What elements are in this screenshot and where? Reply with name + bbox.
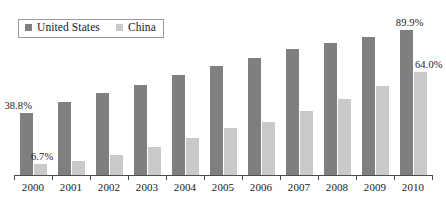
bar-united-states — [248, 58, 261, 175]
x-axis-ticks — [14, 175, 432, 180]
data-label-united-states: 89.9% — [396, 17, 424, 28]
bar-group — [318, 14, 356, 175]
x-axis-label: 2005 — [204, 181, 242, 193]
x-axis-tick — [52, 175, 53, 180]
x-axis-tick — [280, 175, 281, 180]
x-axis-tick — [432, 175, 433, 180]
x-axis-tick — [90, 175, 91, 180]
x-axis-label: 2003 — [128, 181, 166, 193]
x-axis-label: 2009 — [356, 181, 394, 193]
bar-united-states — [362, 37, 375, 175]
x-axis-tick — [318, 175, 319, 180]
x-axis-tick — [128, 175, 129, 180]
x-axis-tick — [394, 175, 395, 180]
bar-china — [34, 164, 47, 175]
x-axis-label: 2000 — [14, 181, 52, 193]
bar-united-states — [400, 30, 413, 175]
bar-group — [356, 14, 394, 175]
bar-united-states — [210, 66, 223, 175]
bar-china — [414, 72, 427, 175]
x-axis-label: 2002 — [90, 181, 128, 193]
data-label-china: 6.7% — [31, 151, 53, 162]
x-axis-label: 2006 — [242, 181, 280, 193]
bar-china — [262, 122, 275, 175]
bar-group — [52, 14, 90, 175]
bar-group: 89.9%64.0% — [394, 14, 432, 175]
bar-group — [128, 14, 166, 175]
x-axis-label: 2010 — [394, 181, 432, 193]
bar-china — [186, 138, 199, 175]
bar-china — [224, 128, 237, 175]
bar-china — [148, 147, 161, 175]
x-axis-label: 2008 — [318, 181, 356, 193]
bar-united-states — [172, 75, 185, 175]
bar-china — [72, 161, 85, 175]
x-axis-label: 2004 — [166, 181, 204, 193]
bar-group — [166, 14, 204, 175]
bar-group: 38.8%6.7% — [14, 14, 52, 175]
bar-united-states — [286, 49, 299, 175]
bar-united-states — [324, 43, 337, 175]
bar-china — [300, 111, 313, 175]
bar-group — [90, 14, 128, 175]
bar-china — [338, 99, 351, 175]
bar-group — [242, 14, 280, 175]
x-axis-tick — [14, 175, 15, 180]
bar-group — [280, 14, 318, 175]
x-axis-labels: 2000200120022003200420052006200720082009… — [14, 181, 432, 193]
bar-china — [110, 155, 123, 175]
bar-chart: United States China 38.8%6.7%89.9%64.0% … — [0, 0, 446, 204]
x-axis-label: 2007 — [280, 181, 318, 193]
x-axis-label: 2001 — [52, 181, 90, 193]
data-label-china: 64.0% — [415, 59, 443, 70]
bar-united-states — [58, 102, 71, 175]
bar-group — [204, 14, 242, 175]
x-axis-tick — [204, 175, 205, 180]
plot-area: 38.8%6.7%89.9%64.0% — [14, 14, 432, 175]
bar-groups: 38.8%6.7%89.9%64.0% — [14, 14, 432, 175]
data-label-united-states: 38.8% — [4, 100, 32, 111]
bar-united-states — [20, 113, 33, 175]
bar-united-states — [96, 93, 109, 175]
bar-united-states — [134, 85, 147, 175]
x-axis-tick — [166, 175, 167, 180]
bar-china — [376, 86, 389, 175]
x-axis-tick — [356, 175, 357, 180]
x-axis-tick — [242, 175, 243, 180]
